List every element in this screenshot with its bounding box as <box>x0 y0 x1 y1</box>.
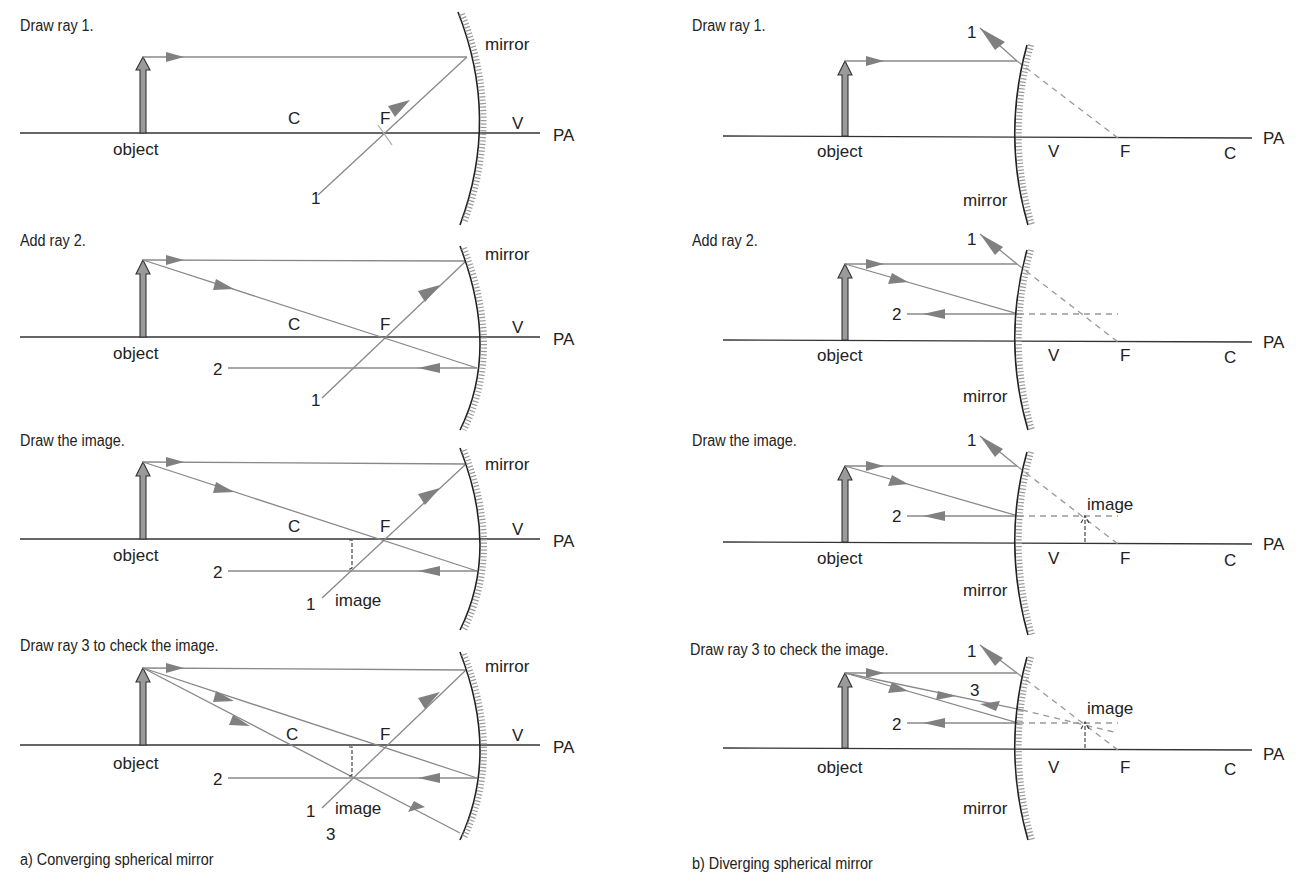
diverging-step3-diagram: 1 2 image V F C PA object mirror <box>650 430 1304 640</box>
vertex-label: V <box>1048 758 1060 777</box>
diverging-step2-diagram: 1 2 V F C PA object mirror <box>650 230 1304 430</box>
object-label: object <box>817 346 863 365</box>
vertex-label: V <box>512 318 524 337</box>
object-label: object <box>817 549 863 568</box>
object-label: object <box>113 754 159 773</box>
image-label: image <box>1087 699 1133 718</box>
converging-step3-diagram: mirror C F V PA object 2 1 image <box>0 430 650 640</box>
image-label: image <box>335 591 381 610</box>
diverging-step4-diagram: 1 3 2 image V F C PA object mirror <box>650 630 1304 860</box>
pa-label: PA <box>553 330 575 349</box>
converging-caption: a) Converging spherical mirror <box>20 851 214 869</box>
center-label: C <box>1224 760 1236 779</box>
vertex-label: V <box>512 114 524 133</box>
center-label: C <box>288 109 300 128</box>
mirror-label: mirror <box>485 455 530 474</box>
object-label: object <box>817 758 863 777</box>
mirror-label: mirror <box>963 799 1008 818</box>
mirror-label: mirror <box>485 657 530 676</box>
object-arrow-icon <box>136 57 150 133</box>
object-label: object <box>113 546 159 565</box>
ray2-label: 2 <box>213 770 222 789</box>
mirror-label: mirror <box>485 245 530 264</box>
center-label: C <box>286 725 298 744</box>
focus-label: F <box>1120 758 1130 777</box>
ray1-label: 1 <box>967 431 976 450</box>
image-arrow <box>1081 722 1089 748</box>
focus-label: F <box>380 517 390 536</box>
image-label: image <box>1087 495 1133 514</box>
pa-label: PA <box>553 126 575 145</box>
ray1-label: 1 <box>967 23 976 42</box>
image-label: image <box>335 799 381 818</box>
center-label: C <box>1224 348 1236 367</box>
mirror-label: mirror <box>963 581 1008 600</box>
center-label: C <box>1224 551 1236 570</box>
ray3-label: 3 <box>970 681 979 700</box>
pa-label: PA <box>553 532 575 551</box>
focus-label: F <box>380 315 390 334</box>
pa-label: PA <box>1263 535 1285 554</box>
pa-label: PA <box>1263 129 1285 148</box>
concave-mirror <box>458 12 480 225</box>
ray3-label: 3 <box>326 825 335 844</box>
ray2-label: 2 <box>213 563 222 582</box>
center-label: C <box>1224 144 1236 163</box>
focus-label: F <box>1120 549 1130 568</box>
pa-label: PA <box>553 738 575 757</box>
ray1-label: 1 <box>306 802 315 821</box>
diverging-step1-diagram: 1 V F C PA object mirror <box>650 0 1304 230</box>
focus-label: F <box>380 109 390 128</box>
ray1-label: 1 <box>967 642 976 661</box>
ray1-label: 1 <box>311 391 320 410</box>
vertex-label: V <box>512 520 524 539</box>
vertex-label: V <box>1048 346 1060 365</box>
ray2-label: 2 <box>892 507 901 526</box>
converging-step2-diagram: mirror C F V PA object 2 1 <box>0 230 650 430</box>
vertex-label: V <box>512 726 524 745</box>
pa-label: PA <box>1263 333 1285 352</box>
focus-label: F <box>1120 346 1130 365</box>
converging-step4-diagram: mirror C F V PA object 2 1 image 3 <box>0 630 650 860</box>
pa-label: PA <box>1263 745 1285 764</box>
converging-step1-diagram: mirror C F V PA object 1 <box>0 0 650 230</box>
ray1-label: 1 <box>311 189 320 208</box>
focus-label: F <box>380 725 390 744</box>
ray2-label: 2 <box>213 360 222 379</box>
object-label: object <box>113 140 159 159</box>
ray1-label: 1 <box>306 595 315 614</box>
image-arrow <box>348 540 352 570</box>
object-label: object <box>113 344 159 363</box>
vertex-label: V <box>1048 549 1060 568</box>
image-arrow <box>1081 516 1089 542</box>
mirror-label: mirror <box>963 387 1008 406</box>
ray2-label: 2 <box>892 715 901 734</box>
center-label: C <box>288 517 300 536</box>
image-arrow <box>348 747 352 777</box>
mirror-label: mirror <box>485 35 530 54</box>
diverging-caption: b) Diverging spherical mirror <box>692 855 873 873</box>
ray2-label: 2 <box>892 305 901 324</box>
center-label: C <box>288 315 300 334</box>
mirror-label: mirror <box>963 191 1008 210</box>
vertex-label: V <box>1048 142 1060 161</box>
ray1-label: 1 <box>967 230 976 249</box>
focus-label: F <box>1120 142 1130 161</box>
object-label: object <box>817 142 863 161</box>
